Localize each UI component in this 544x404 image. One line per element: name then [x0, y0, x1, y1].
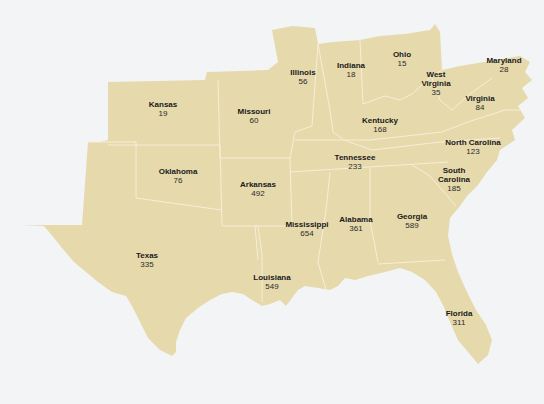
state-value: 60 [238, 116, 271, 125]
southeast-us-map [0, 0, 544, 404]
state-name: Tennessee [335, 153, 376, 162]
state-value: 28 [486, 65, 521, 74]
state-name: Kansas [149, 100, 177, 109]
state-name: Kentucky [362, 116, 398, 125]
state-label-louisiana: Louisiana549 [253, 273, 290, 291]
state-value: 76 [159, 176, 198, 185]
state-name: Georgia [397, 212, 427, 221]
state-name: South [438, 166, 470, 175]
state-value: 589 [397, 221, 427, 230]
state-name: Louisiana [253, 273, 290, 282]
state-value: 56 [290, 77, 315, 86]
state-value: 233 [335, 162, 376, 171]
state-name: Carolina [438, 175, 470, 184]
state-name: Alabama [339, 215, 372, 224]
state-name: Arkansas [240, 180, 276, 189]
state-value: 123 [445, 147, 501, 156]
state-name: Missouri [238, 107, 271, 116]
state-label-florida: Florida311 [446, 309, 473, 327]
state-value: 361 [339, 224, 372, 233]
state-name: North Carolina [445, 138, 501, 147]
state-value: 492 [240, 189, 276, 198]
state-label-kentucky: Kentucky168 [362, 116, 398, 134]
state-label-maryland: Maryland28 [486, 56, 521, 74]
state-name: Florida [446, 309, 473, 318]
state-label-arkansas: Arkansas492 [240, 180, 276, 198]
state-label-tennessee: Tennessee233 [335, 153, 376, 171]
state-value: 84 [465, 103, 494, 112]
state-value: 18 [337, 70, 365, 79]
state-label-georgia: Georgia589 [397, 212, 427, 230]
state-value: 311 [446, 318, 473, 327]
state-label-west-virginia: WestVirginia35 [421, 70, 450, 97]
state-name: Texas [136, 251, 158, 260]
state-value: 19 [149, 109, 177, 118]
state-value: 35 [421, 88, 450, 97]
state-label-indiana: Indiana18 [337, 61, 365, 79]
state-name: Virginia [465, 94, 494, 103]
state-name: West [421, 70, 450, 79]
state-name: Oklahoma [159, 167, 198, 176]
state-name: Illinois [290, 68, 315, 77]
state-label-south-carolina: SouthCarolina185 [438, 166, 470, 193]
state-label-alabama: Alabama361 [339, 215, 372, 233]
state-name: Virginia [421, 79, 450, 88]
state-value: 335 [136, 260, 158, 269]
state-value: 549 [253, 282, 290, 291]
state-name: Maryland [486, 56, 521, 65]
state-label-mississippi: Mississippi654 [285, 220, 328, 238]
state-name: Indiana [337, 61, 365, 70]
state-label-north-carolina: North Carolina123 [445, 138, 501, 156]
state-name: Mississippi [285, 220, 328, 229]
state-value: 15 [393, 59, 411, 68]
state-label-illinois: Illinois56 [290, 68, 315, 86]
state-label-ohio: Ohio15 [393, 50, 411, 68]
state-label-missouri: Missouri60 [238, 107, 271, 125]
state-label-virginia: Virginia84 [465, 94, 494, 112]
state-value: 654 [285, 229, 328, 238]
state-label-oklahoma: Oklahoma76 [159, 167, 198, 185]
state-value: 168 [362, 125, 398, 134]
state-label-kansas: Kansas19 [149, 100, 177, 118]
state-value: 185 [438, 184, 470, 193]
state-label-texas: Texas335 [136, 251, 158, 269]
state-name: Ohio [393, 50, 411, 59]
